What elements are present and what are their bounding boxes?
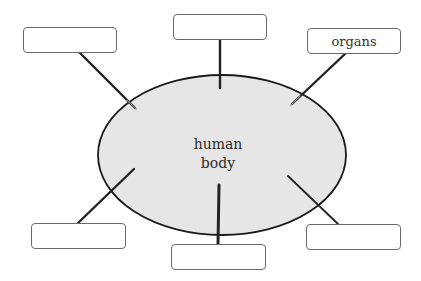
box-bottom-center[interactable] [171, 244, 266, 270]
connector-bottom-center [218, 185, 219, 244]
box-top-right-text: organs [331, 34, 376, 49]
box-top-center[interactable] [173, 14, 267, 40]
box-top-left[interactable] [23, 27, 117, 53]
center-label: human body [168, 135, 268, 173]
box-bottom-left[interactable] [31, 223, 126, 249]
box-top-right[interactable]: organs [307, 28, 401, 54]
center-label-line2: body [168, 154, 268, 173]
center-label-line1: human [168, 135, 268, 154]
box-bottom-right[interactable] [306, 224, 401, 250]
